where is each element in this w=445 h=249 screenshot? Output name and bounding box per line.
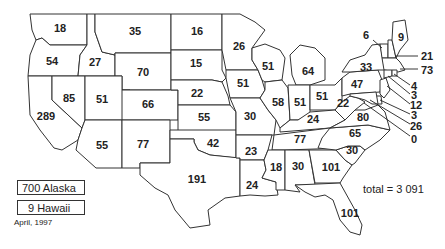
label-south-carolina: 30	[346, 144, 358, 156]
label-nebraska: 22	[191, 87, 203, 99]
label-texas: 191	[188, 173, 206, 185]
label-north-dakota: 16	[191, 25, 203, 37]
label-south-dakota: 15	[190, 57, 202, 69]
label-nevada: 85	[63, 92, 75, 104]
label-arkansas: 23	[245, 145, 257, 157]
label-mississippi: 18	[270, 161, 282, 173]
date-label: April, 1997	[14, 218, 52, 227]
label-arizona: 55	[96, 139, 108, 151]
label-ohio: 51	[316, 90, 328, 102]
hawaii-inset-box: 9 Hawaii	[17, 200, 85, 215]
label-idaho: 27	[89, 56, 101, 68]
alaska-inset-box: 700 Alaska	[17, 180, 85, 195]
label-washington: 18	[54, 22, 66, 34]
label-indiana: 51	[294, 96, 306, 108]
label-new-hampshire: 21	[421, 50, 433, 62]
label-illinois: 58	[272, 96, 284, 108]
label-virginia: 80	[357, 111, 369, 123]
label-florida: 101	[341, 207, 359, 219]
label-district-of-columbia: 0	[411, 133, 417, 145]
label-iowa: 51	[237, 77, 249, 89]
label-wisconsin: 51	[262, 60, 274, 72]
label-maine: 9	[398, 31, 404, 43]
label-kansas: 55	[198, 111, 210, 123]
label-louisiana: 24	[246, 179, 259, 191]
label-vermont: 6	[363, 29, 369, 41]
label-new-york: 33	[360, 61, 372, 73]
label-utah: 51	[96, 93, 108, 105]
label-colorado: 66	[142, 98, 154, 110]
total-label: total = 3 091	[363, 183, 424, 195]
label-missouri: 30	[244, 110, 256, 122]
label-michigan: 64	[302, 65, 315, 77]
label-north-carolina: 65	[349, 127, 361, 139]
label-tennessee: 77	[294, 133, 306, 145]
label-oklahoma: 42	[207, 137, 219, 149]
label-maryland: 26	[410, 120, 422, 132]
label-wyoming: 70	[137, 66, 149, 78]
state-connecticut[interactable]	[384, 70, 392, 78]
label-new-mexico: 77	[137, 138, 149, 150]
label-alabama: 30	[292, 160, 304, 172]
label-georgia: 101	[322, 161, 340, 173]
label-oregon: 54	[46, 55, 59, 67]
label-montana: 35	[129, 25, 141, 37]
label-west-virginia: 22	[337, 97, 349, 109]
label-kentucky: 24	[307, 113, 320, 125]
state-vermont[interactable]	[380, 44, 388, 58]
label-pennsylvania: 47	[351, 78, 363, 90]
label-massachusetts: 73	[421, 64, 433, 76]
label-california: 289	[37, 110, 55, 122]
label-minnesota: 26	[233, 40, 245, 52]
state-new-jersey[interactable]	[380, 78, 390, 98]
